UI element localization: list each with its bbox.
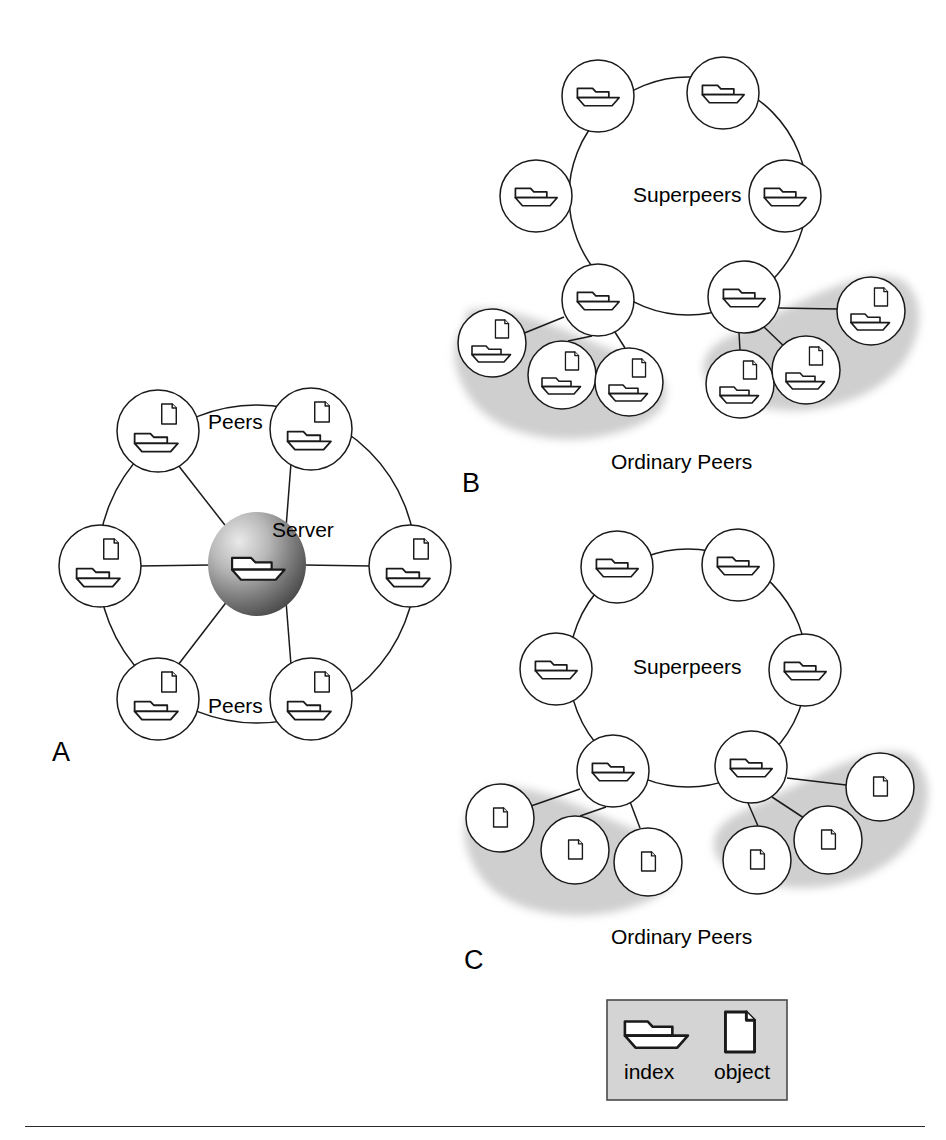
panel-b-label-superpeers: Superpeers (633, 183, 742, 207)
document-object-icon (162, 672, 177, 692)
panel-a-label-peers-top: Peers (208, 410, 263, 434)
peer-node (270, 388, 352, 470)
panel-c (465, 529, 928, 915)
superpeer-node (715, 731, 787, 803)
document-object-icon (495, 320, 508, 338)
document-object-icon (874, 777, 888, 796)
document-object-icon (725, 1012, 754, 1052)
document-object-icon (162, 404, 177, 424)
bottom-divider (25, 1126, 925, 1127)
ordinary-peer-node (595, 348, 663, 416)
document-object-icon (809, 347, 822, 365)
superpeer-node (708, 261, 780, 333)
figure-root: Peers Server Peers A Superpeers Ordinary… (0, 0, 946, 1140)
legend-label-index: index (624, 1060, 674, 1084)
panel-c-letter: C (464, 945, 484, 976)
superpeer-node (562, 60, 634, 132)
panel-a-letter: A (52, 737, 70, 768)
ordinary-peer-node (541, 816, 609, 884)
ordinary-peer-node (794, 806, 862, 874)
superpeer-node (687, 57, 759, 129)
ordinary-peer-node (723, 826, 791, 894)
ordinary-peer-node (772, 336, 840, 404)
ordinary-peer-node (837, 277, 905, 345)
panel-a-label-peers-bottom: Peers (208, 694, 263, 718)
panel-c-label-superpeers: Superpeers (633, 655, 742, 679)
superpeer-node (702, 529, 774, 601)
peer-node (270, 658, 352, 740)
document-object-icon (315, 402, 330, 422)
panel-c-label-ordinary-peers: Ordinary Peers (611, 925, 752, 949)
superpeer-node (581, 531, 653, 603)
superpeer-node (500, 160, 572, 232)
legend-label-object: object (714, 1060, 770, 1084)
peer-node (117, 390, 199, 472)
ordinary-peer-node (528, 341, 596, 409)
legend (607, 1000, 787, 1100)
document-object-icon (569, 840, 583, 859)
document-object-icon (642, 852, 656, 871)
superpeer-node (577, 735, 649, 807)
ordinary-peer-node (466, 784, 534, 852)
superpeer-node (520, 633, 592, 705)
document-object-icon (494, 808, 508, 827)
document-object-icon (751, 850, 765, 869)
ordinary-peer-node (458, 309, 526, 377)
panel-b (455, 57, 920, 439)
peer-node (117, 658, 199, 740)
document-object-icon (632, 359, 645, 377)
ordinary-peer-node (846, 753, 914, 821)
legend-box (607, 1000, 787, 1100)
ordinary-peer-node (706, 350, 774, 418)
panel-b-letter: B (462, 468, 480, 499)
panel-b-label-ordinary-peers: Ordinary Peers (611, 450, 752, 474)
document-object-icon (822, 830, 836, 849)
peer-node (59, 525, 141, 607)
peer-node (369, 525, 451, 607)
document-object-icon (565, 352, 578, 370)
panel-a-label-server: Server (272, 518, 334, 542)
panel-a (59, 388, 451, 740)
ordinary-peer-node (614, 828, 682, 896)
superpeer-node (562, 264, 634, 336)
document-object-icon (414, 539, 429, 559)
document-object-icon (315, 672, 330, 692)
superpeer-node (749, 160, 821, 232)
document-object-icon (104, 539, 119, 559)
superpeer-node (769, 634, 841, 706)
document-object-icon (874, 288, 887, 306)
document-object-icon (743, 361, 756, 379)
